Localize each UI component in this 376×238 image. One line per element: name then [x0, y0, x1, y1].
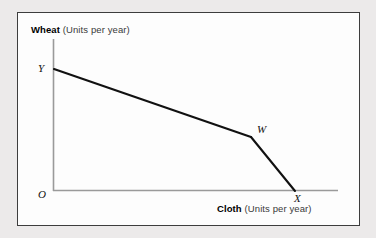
label-y-intercept: Y	[38, 62, 44, 74]
plot-area	[18, 13, 361, 227]
label-origin: O	[38, 188, 46, 200]
ppf-segment-w-to-x	[251, 137, 295, 191]
x-axis-title-bold: Cloth	[217, 203, 242, 214]
figure-panel: Wheat (Units per year) Cloth (Units per …	[17, 12, 360, 226]
ppf-chart-svg	[18, 13, 361, 227]
label-x-intercept: X	[294, 192, 301, 204]
ppf-segment-y-to-w	[54, 69, 251, 137]
y-axis-title: Wheat (Units per year)	[31, 24, 130, 35]
x-axis-title: Cloth (Units per year)	[217, 203, 312, 214]
label-kink-w: W	[257, 123, 266, 135]
x-axis-title-units: (Units per year)	[245, 203, 312, 214]
y-axis-title-units: (Units per year)	[63, 24, 130, 35]
chart-screenshot: Wheat (Units per year) Cloth (Units per …	[0, 0, 376, 238]
y-axis-title-bold: Wheat	[31, 24, 60, 35]
